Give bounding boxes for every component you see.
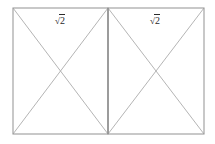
figure-canvas: [0, 0, 215, 144]
geometry-figure: [0, 0, 215, 144]
